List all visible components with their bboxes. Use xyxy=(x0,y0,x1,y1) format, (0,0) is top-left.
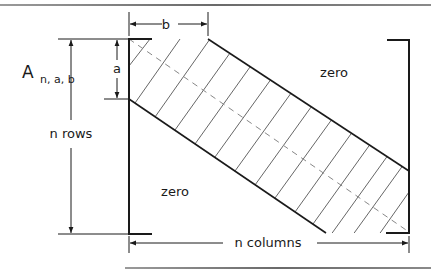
a-label: a xyxy=(113,61,121,76)
left-matrix-bracket xyxy=(129,39,152,234)
zero-upper-label: zero xyxy=(320,65,348,80)
matrix-name: A n, a, b xyxy=(22,62,75,86)
matrix-subscript: n, a, b xyxy=(40,73,75,86)
matrix-symbol: A xyxy=(22,62,34,82)
main-diagonal-dashed xyxy=(129,39,409,232)
band-lower-edge xyxy=(129,99,326,233)
rows-label: n rows xyxy=(50,126,93,141)
band-matrix-diagram: b a n rows n columns A n, a, b zero zero xyxy=(0,0,431,270)
right-matrix-bracket xyxy=(386,40,409,233)
b-label: b xyxy=(162,17,170,32)
columns-label: n columns xyxy=(235,235,302,250)
zero-lower-label: zero xyxy=(161,184,189,199)
band-hatching xyxy=(129,39,409,236)
